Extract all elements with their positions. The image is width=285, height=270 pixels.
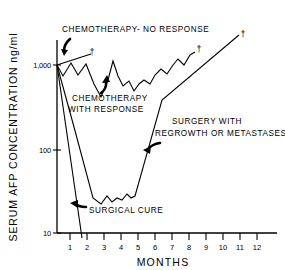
x-tick-label-9: 9 xyxy=(204,243,208,252)
annotation-surgery-line1: SURGERY WITH xyxy=(172,117,242,126)
annotation-surgery-line2: REGROWTH OR METASTASES xyxy=(155,129,285,138)
annotation-surgical-cure: SURGICAL CURE xyxy=(89,206,163,215)
x-tick-marks xyxy=(70,233,257,240)
chart-canvas: 1,000 100 10 1 2 3 4 5 6 7 xyxy=(0,0,285,270)
y-tick-label-1000: 1,000 xyxy=(33,61,51,70)
x-tick-labels: 1 2 3 4 5 6 7 8 9 10 11 12 xyxy=(68,243,261,252)
y-axis-title: SERUM AFP CONCENTRATION ng/ml xyxy=(7,33,19,242)
x-tick-label-7: 7 xyxy=(170,243,174,252)
x-tick-label-8: 8 xyxy=(187,243,191,252)
x-tick-label-1: 1 xyxy=(68,243,72,252)
arrow-no-response xyxy=(61,39,70,56)
x-tick-label-10: 10 xyxy=(219,243,227,252)
x-tick-label-3: 3 xyxy=(102,243,106,252)
y-tick-label-10: 10 xyxy=(43,229,51,238)
x-axis-title: MONTHS xyxy=(137,256,190,268)
x-tick-label-4: 4 xyxy=(119,243,123,252)
dagger-marker-surgery-regrowth: † xyxy=(240,29,245,39)
annotation-no-response: CHEMOTHERAPY- NO RESPONSE xyxy=(62,25,209,34)
dagger-marker-with-response: † xyxy=(196,44,201,54)
y-tick-label-100: 100 xyxy=(39,146,51,155)
annotation-with-response-line1: CHEMOTHERAPY xyxy=(72,94,148,103)
afp-concentration-chart: 1,000 100 10 1 2 3 4 5 6 7 xyxy=(0,0,285,270)
x-tick-label-2: 2 xyxy=(85,243,89,252)
x-tick-label-6: 6 xyxy=(153,243,157,252)
y-tick-labels: 1,000 100 10 xyxy=(33,61,51,238)
arrow-surgery-regrowth xyxy=(143,143,160,154)
x-tick-label-12: 12 xyxy=(253,243,261,252)
x-tick-label-11: 11 xyxy=(236,243,244,252)
series-surgical-cure xyxy=(57,65,82,238)
arrow-surgical-cure xyxy=(70,200,86,208)
annotation-with-response-line2: WITH RESPONSE xyxy=(68,105,144,114)
x-tick-label-5: 5 xyxy=(136,243,140,252)
dagger-marker-no-response: † xyxy=(89,47,94,57)
